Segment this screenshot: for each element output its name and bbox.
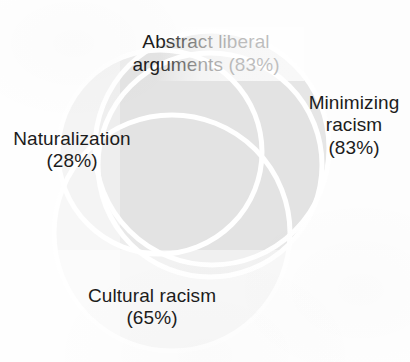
venn-label-cultural-racism: Cultural racism (65%) [64,285,240,330]
venn-diagram-figure: Naturalization (28%) Minimizing racism (… [0,0,410,362]
venn-label-naturalization-name: Naturalization [13,128,131,149]
venn-label-cultural-percent: (65%) [64,307,240,329]
venn-label-minimizing-line2: racism [300,114,408,136]
venn-label-naturalization-percent: (28%) [4,150,140,172]
venn-label-minimizing-percent: (83%) [300,137,408,159]
venn-label-minimizing-racism: Minimizing racism (83%) [300,92,408,159]
venn-label-abstract-line1: Abstract liberal [118,31,294,54]
venn-label-naturalization: Naturalization (28%) [4,128,140,173]
venn-label-cultural-name: Cultural racism [88,285,216,306]
venn-label-abstract-liberal: Abstract liberal arguments (83%) [118,31,294,77]
venn-label-abstract-line2: arguments (83%) [118,54,294,77]
venn-label-minimizing-line1: Minimizing [309,92,400,113]
